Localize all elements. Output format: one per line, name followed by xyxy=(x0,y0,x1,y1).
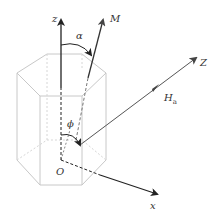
alpha-arc xyxy=(61,44,91,55)
field-axis-label: Z xyxy=(200,58,207,68)
alpha-label: α xyxy=(76,31,83,41)
field-mid-arrow xyxy=(152,84,159,92)
diagram-svg xyxy=(0,0,217,219)
origin-label: O xyxy=(56,167,64,177)
field-label: Ha xyxy=(164,93,177,106)
phi-label: ϕ xyxy=(67,119,74,129)
z-axis-label: z xyxy=(52,14,57,24)
field-label-main: H xyxy=(164,92,173,103)
field-label-sub: a xyxy=(173,98,177,106)
x-axis-label: x xyxy=(150,201,156,211)
diagram-canvas: z M α Z Ha ϕ O x xyxy=(0,0,217,219)
x-axis xyxy=(61,160,157,194)
magnetization-label: M xyxy=(110,14,120,24)
field-axis xyxy=(80,58,196,145)
